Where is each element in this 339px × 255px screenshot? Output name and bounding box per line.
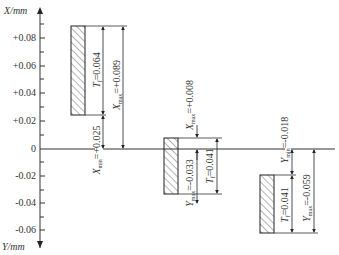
axis-arrow-up-icon [37, 7, 43, 14]
xmax-label: Xmax=+0.089 [111, 60, 123, 111]
ymin-label: Ymin=-0.018 [279, 117, 291, 163]
tick-label: +0.02 [13, 115, 36, 126]
xmin-label: Xmin=+0.025 [91, 125, 103, 175]
tolerance-box [164, 138, 178, 194]
ymax-label: Ymax=-0.033 [184, 159, 196, 206]
tolerance-box [71, 26, 85, 115]
tick-label: +0.08 [13, 32, 36, 43]
tick-label: +0.06 [13, 60, 36, 71]
tick-label: -0.04 [15, 197, 36, 208]
tick-label: 0 [31, 143, 36, 154]
zone-clearance-fit: Tf=0.064 Xmax=+0.089 Xmin=+0.025 [71, 26, 127, 176]
xmax-label: Xmax=+0.008 [184, 80, 196, 131]
zone-transition-fit: Xmax=+0.008 Ymax=-0.033 Tf=0.041 [164, 80, 222, 207]
tick-label: +0.04 [13, 87, 36, 98]
tf-label: Tf=0.041 [279, 187, 291, 223]
tick-label: -0.02 [15, 170, 36, 181]
tolerance-box [260, 175, 274, 233]
tf-label: Tf=0.041 [204, 148, 216, 184]
tf-label: Tf=0.064 [91, 52, 103, 88]
tick-label: -0.06 [15, 224, 36, 235]
zone-interference-fit: Ymin=-0.018 Tf=0.041 Ymax=-0.059 [260, 117, 318, 233]
y-axis-bottom-title: Y/mm [2, 241, 25, 252]
ymax-label: Ymax=-0.059 [301, 174, 313, 221]
axis-arrow-down-icon [37, 241, 43, 248]
y-axis: X/mm Y/mm +0.08 +0.06 +0.04 +0.02 0 -0.0… [2, 5, 45, 252]
y-axis-top-title: X/mm [3, 5, 27, 16]
fit-tolerance-diagram: X/mm Y/mm +0.08 +0.06 +0.04 +0.02 0 -0.0… [0, 0, 339, 255]
